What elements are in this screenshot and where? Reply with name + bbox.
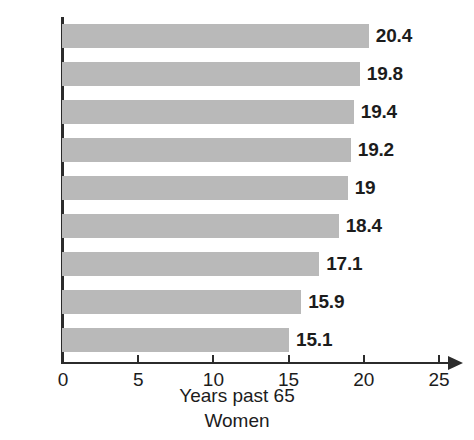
bar-value-label: 19.2 bbox=[358, 139, 394, 161]
x-axis-tick-mark bbox=[137, 355, 139, 364]
bar bbox=[62, 24, 369, 48]
bar bbox=[62, 100, 354, 124]
bar-value-label: 15.1 bbox=[296, 329, 332, 351]
x-axis-subtitle: Women bbox=[0, 410, 474, 432]
bar-chart: 203020.4202019.8201019.4200019.219901919… bbox=[0, 0, 474, 440]
bar bbox=[62, 62, 360, 86]
bar-value-label: 19.4 bbox=[361, 101, 397, 123]
bar bbox=[62, 138, 351, 162]
x-axis-tick-mark bbox=[438, 355, 440, 364]
bar bbox=[62, 214, 339, 238]
bar-value-label: 17.1 bbox=[326, 253, 362, 275]
x-axis-arrow-icon bbox=[448, 356, 463, 370]
bar-value-label: 19.8 bbox=[367, 63, 403, 85]
x-axis-tick-mark bbox=[62, 355, 64, 364]
bar bbox=[62, 252, 319, 276]
bar-value-label: 19 bbox=[355, 177, 376, 199]
bar bbox=[62, 328, 289, 352]
bar bbox=[62, 290, 301, 314]
bar bbox=[62, 176, 348, 200]
bar-value-label: 20.4 bbox=[376, 25, 412, 47]
bar-value-label: 15.9 bbox=[308, 291, 344, 313]
x-axis-tick-mark bbox=[212, 355, 214, 364]
x-axis-tick-mark bbox=[288, 355, 290, 364]
bar-value-label: 18.4 bbox=[346, 215, 382, 237]
x-axis-title: Years past 65 bbox=[0, 385, 474, 407]
x-axis-tick-mark bbox=[363, 355, 365, 364]
x-axis-line bbox=[61, 362, 451, 364]
